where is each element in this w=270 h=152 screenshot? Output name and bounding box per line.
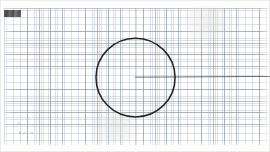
grid-major-lines — [4, 8, 268, 145]
pencil-mark-a: A — [17, 121, 20, 126]
corner-stamp — [4, 10, 21, 17]
graph-paper-scan: A h o . n — [0, 0, 270, 152]
pencil-mark-b: h o . n — [19, 130, 33, 135]
grid-region — [4, 8, 268, 145]
